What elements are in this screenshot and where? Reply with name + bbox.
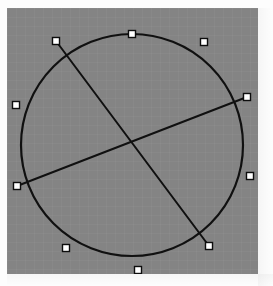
handle-circle-right[interactable]	[247, 173, 254, 180]
drawing-canvas[interactable]	[7, 8, 258, 274]
handle-chord-a-end[interactable]	[206, 243, 213, 250]
handle-circle-bottom-left[interactable]	[63, 245, 70, 252]
app-root	[0, 0, 273, 286]
figure-svg[interactable]	[7, 8, 258, 274]
handle-chord-a-start[interactable]	[53, 38, 60, 45]
chord-a[interactable]	[56, 41, 209, 246]
handle-circle-top[interactable]	[129, 31, 136, 38]
page-edge-shadow-bottom	[7, 274, 273, 286]
handle-chord-b-end[interactable]	[244, 94, 251, 101]
circle-shape[interactable]	[21, 34, 243, 256]
handle-chord-b-start[interactable]	[14, 183, 21, 190]
selection-handle-layer	[13, 31, 254, 274]
handle-circle-top-right[interactable]	[201, 39, 208, 46]
handle-circle-bottom[interactable]	[135, 267, 142, 274]
chord-b[interactable]	[17, 97, 247, 186]
page-edge-shadow-right	[258, 8, 273, 286]
handle-circle-left[interactable]	[13, 102, 20, 109]
